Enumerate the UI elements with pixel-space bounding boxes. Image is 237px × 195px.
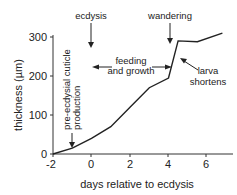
x-tick-labels: -2 0 2 4 6 [46, 158, 209, 170]
svg-text:300: 300 [29, 31, 47, 43]
svg-text:2: 2 [127, 158, 133, 170]
feeding-arrowhead-left [92, 65, 99, 70]
larva-arrow [184, 61, 198, 70]
svg-text:6: 6 [203, 158, 209, 170]
annotation-production: production [71, 86, 82, 130]
annotation-growth: and growth [107, 65, 154, 76]
svg-text:-2: -2 [46, 158, 56, 170]
annotation-ecdysis: ecdysis [75, 10, 107, 21]
ecdysis-arrowhead [88, 42, 94, 48]
wandering-arrowhead [167, 38, 173, 44]
svg-text:100: 100 [29, 109, 47, 121]
chart: 0 100 200 300 -2 0 2 4 6 days relative t… [0, 0, 237, 195]
annotation-wandering: wandering [147, 10, 192, 21]
svg-text:0: 0 [88, 158, 94, 170]
annotation-larva: larva [198, 65, 219, 76]
svg-text:200: 200 [29, 70, 47, 82]
svg-text:4: 4 [165, 158, 171, 170]
annotation-shortens: shortens [190, 76, 227, 87]
x-axis-label: days relative to ecdysis [80, 178, 194, 190]
y-axis-label: thickness (µm) [12, 59, 24, 131]
y-tick-labels: 0 100 200 300 [29, 31, 47, 160]
